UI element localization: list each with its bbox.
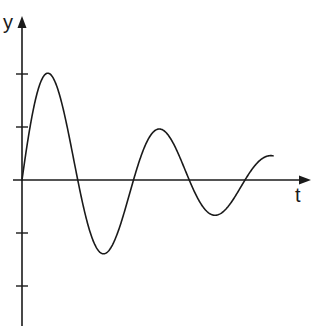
damped-oscillation-diagram bbox=[0, 0, 316, 334]
t-axis-label: t bbox=[295, 185, 301, 205]
y-axis-arrow-icon bbox=[18, 16, 27, 28]
axes bbox=[13, 16, 311, 326]
y-axis-label: y bbox=[3, 12, 13, 32]
damped-sine-curve bbox=[22, 73, 273, 254]
